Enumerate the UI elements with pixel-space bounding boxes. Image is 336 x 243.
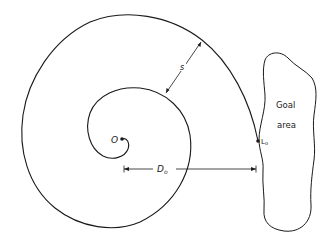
goal-point-label: Lo [261, 138, 268, 146]
goal-point-dot [256, 139, 260, 143]
goal-area-label-line2: area [277, 120, 296, 130]
origin-dot [120, 137, 124, 141]
spacing-label: s [180, 63, 184, 72]
origin-label: O [111, 135, 118, 145]
goal-area-label-line1: Goal [276, 100, 295, 110]
distance-label: Do [157, 164, 168, 175]
spiral-path [22, 15, 258, 228]
spiral-diagram: O s Do Lo Goal area [0, 0, 336, 243]
distance-arrow [124, 166, 256, 173]
